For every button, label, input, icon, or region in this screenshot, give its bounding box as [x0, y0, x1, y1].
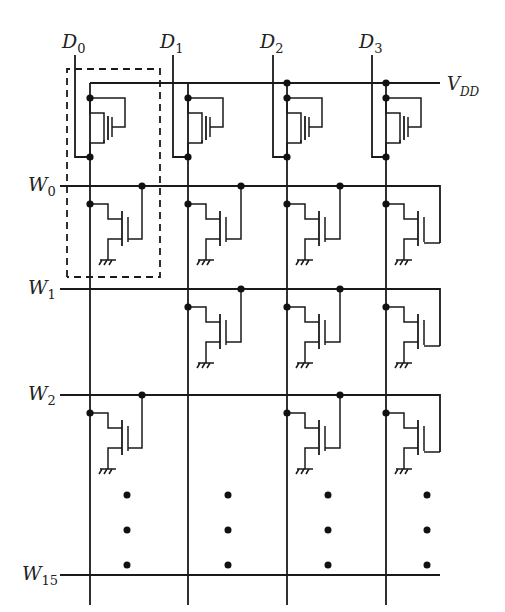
- rom-array-diagram: D0 D1 D2 D3 VDD W0 W1 W2 W15: [0, 0, 505, 612]
- label-d2: D2: [259, 30, 284, 56]
- cell-w0-d2: [283, 200, 325, 265]
- word-lines: [60, 186, 440, 575]
- cell-w1-d2: [283, 303, 325, 368]
- cell-w2-d2: [283, 409, 325, 474]
- label-w1: W1: [28, 276, 56, 302]
- cell-w0-d1: [184, 200, 226, 265]
- cell-w1-d1: [184, 303, 226, 368]
- label-w15: W15: [22, 562, 58, 588]
- data-lines: [75, 55, 386, 157]
- load-transistors: [86, 79, 421, 160]
- memory-cells: [86, 182, 440, 474]
- label-w2: W2: [28, 382, 56, 408]
- label-d1: D1: [159, 30, 184, 56]
- load-transistor-3: [382, 94, 421, 160]
- label-w0: W0: [28, 173, 56, 199]
- load-transistor-1: [184, 94, 223, 160]
- label-vdd: VDD: [447, 73, 480, 99]
- vdd-junction-2: [283, 79, 290, 86]
- data-line-d2: [273, 55, 287, 157]
- highlight-box: [67, 69, 160, 277]
- word-line-labels: W0 W1 W2 W15: [22, 173, 58, 588]
- word-line-w1: [60, 289, 440, 346]
- bit-lines: [90, 83, 386, 605]
- vdd-junction-3: [382, 79, 389, 86]
- data-line-d3: [372, 55, 386, 157]
- load-transistor-2: [283, 94, 322, 160]
- cell-w0-d3: [382, 200, 424, 265]
- cell-w2-d3: [382, 409, 424, 474]
- label-d3: D3: [358, 30, 383, 56]
- data-line-d0: [75, 55, 90, 157]
- ellipsis-dots: [124, 492, 431, 569]
- cell-w2-d0: [86, 409, 128, 474]
- data-line-d1: [173, 55, 188, 157]
- word-line-w0: [60, 186, 440, 243]
- word-line-w2: [60, 395, 440, 452]
- cell-w0-d0: [86, 200, 128, 265]
- cell-w1-d3: [382, 303, 424, 368]
- label-d0: D0: [61, 30, 86, 56]
- load-transistor-0: [86, 94, 125, 160]
- data-line-labels: D0 D1 D2 D3: [61, 30, 383, 56]
